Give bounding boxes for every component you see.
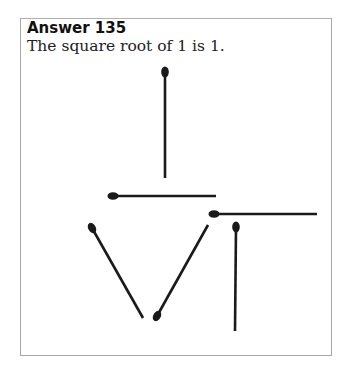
match-vertical-top-icon xyxy=(161,67,169,179)
match-horizontal-right-icon xyxy=(209,210,318,218)
match-horizontal-radical-bar-icon xyxy=(108,192,217,200)
match-vertical-right-icon xyxy=(232,221,240,331)
match-diagonal-left-icon xyxy=(86,221,143,318)
match-diagonal-right-icon xyxy=(151,225,208,323)
matchstick-puzzle xyxy=(0,0,349,374)
